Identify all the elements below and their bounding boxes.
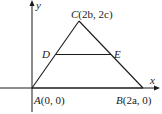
point-a-coords: (0, 0) <box>41 94 65 107</box>
y-axis-label: y <box>35 0 41 11</box>
point-b-label: B(2a, 0) <box>116 94 152 107</box>
triangle-diagram: y x C(2b, 2c) D E A(0, 0) B(2a, 0) <box>0 0 162 114</box>
point-a-label: A(0, 0) <box>33 94 65 107</box>
point-b-coords: (2a, 0) <box>123 94 152 107</box>
x-axis-arrow-icon <box>154 86 160 91</box>
y-axis-arrow-icon <box>30 0 35 6</box>
point-d-label: D <box>41 48 50 60</box>
point-e-label: E <box>113 48 121 60</box>
point-c-label: C(2b, 2c) <box>71 8 113 21</box>
point-c-coords: (2b, 2c) <box>78 8 113 21</box>
x-axis-label: x <box>149 74 155 86</box>
